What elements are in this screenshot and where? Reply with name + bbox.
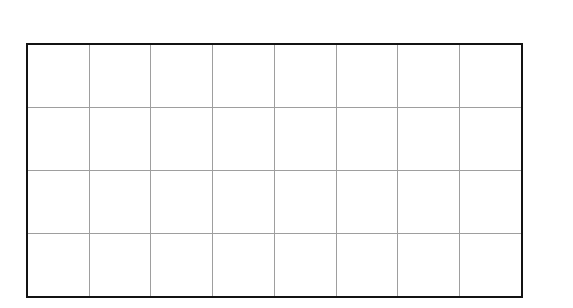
table-cell[interactable] bbox=[151, 107, 213, 170]
table-cell[interactable] bbox=[460, 234, 522, 297]
table-cell-text bbox=[460, 45, 521, 49]
table-cell[interactable] bbox=[213, 107, 275, 170]
table-cell[interactable] bbox=[398, 234, 460, 297]
table-cell-text bbox=[460, 108, 521, 112]
table-row bbox=[27, 44, 522, 107]
table-cell[interactable] bbox=[89, 171, 151, 234]
grid-table bbox=[26, 43, 523, 298]
table-cell-text bbox=[151, 108, 212, 112]
table-cell[interactable] bbox=[213, 171, 275, 234]
table-cell-text bbox=[151, 171, 212, 175]
table-cell[interactable] bbox=[213, 44, 275, 107]
table-cell[interactable] bbox=[398, 44, 460, 107]
table-cell[interactable] bbox=[460, 107, 522, 170]
table-cell-text bbox=[275, 171, 336, 175]
table-cell[interactable] bbox=[151, 171, 213, 234]
table-row bbox=[27, 171, 522, 234]
table-cell-text bbox=[28, 45, 89, 49]
grid-table-body bbox=[27, 44, 522, 297]
table-cell[interactable] bbox=[27, 234, 89, 297]
table-cell[interactable] bbox=[213, 234, 275, 297]
table-cell-text bbox=[213, 45, 274, 49]
table-cell[interactable] bbox=[89, 234, 151, 297]
table-cell-text bbox=[398, 45, 459, 49]
table-cell[interactable] bbox=[27, 171, 89, 234]
table-cell[interactable] bbox=[89, 44, 151, 107]
table-cell-text bbox=[275, 45, 336, 49]
table-cell[interactable] bbox=[460, 171, 522, 234]
table-cell-text bbox=[460, 234, 521, 238]
table-cell[interactable] bbox=[460, 44, 522, 107]
table-cell[interactable] bbox=[336, 234, 398, 297]
table-cell-text bbox=[275, 108, 336, 112]
table-cell[interactable] bbox=[274, 234, 336, 297]
table-cell-text bbox=[337, 108, 398, 112]
table-cell-text bbox=[398, 234, 459, 238]
table-cell-text bbox=[460, 171, 521, 175]
table-cell[interactable] bbox=[336, 107, 398, 170]
table-cell[interactable] bbox=[151, 234, 213, 297]
table-cell[interactable] bbox=[398, 171, 460, 234]
table-row bbox=[27, 234, 522, 297]
table-cell-text bbox=[275, 234, 336, 238]
table-cell-text bbox=[28, 108, 89, 112]
table-cell-text bbox=[398, 108, 459, 112]
table-cell-text bbox=[213, 234, 274, 238]
table-cell[interactable] bbox=[274, 107, 336, 170]
table-cell[interactable] bbox=[274, 171, 336, 234]
table-cell-text bbox=[28, 234, 89, 238]
table-cell[interactable] bbox=[336, 44, 398, 107]
table-row bbox=[27, 107, 522, 170]
table-cell[interactable] bbox=[151, 44, 213, 107]
table-cell-text bbox=[337, 45, 398, 49]
table-cell-text bbox=[213, 108, 274, 112]
table-cell-text bbox=[90, 171, 151, 175]
table-cell[interactable] bbox=[89, 107, 151, 170]
table-cell[interactable] bbox=[336, 171, 398, 234]
table-cell-text bbox=[398, 171, 459, 175]
table-cell-text bbox=[90, 45, 151, 49]
table-cell[interactable] bbox=[274, 44, 336, 107]
table-cell-text bbox=[151, 234, 212, 238]
table-cell-text bbox=[90, 108, 151, 112]
table-cell[interactable] bbox=[398, 107, 460, 170]
table-cell[interactable] bbox=[27, 44, 89, 107]
table-cell-text bbox=[90, 234, 151, 238]
document-page bbox=[0, 0, 573, 308]
table-cell-text bbox=[337, 234, 398, 238]
table-cell-text bbox=[213, 171, 274, 175]
table-cell-text bbox=[151, 45, 212, 49]
table-cell-text bbox=[28, 171, 89, 175]
table-cell[interactable] bbox=[27, 107, 89, 170]
table-cell-text bbox=[337, 171, 398, 175]
